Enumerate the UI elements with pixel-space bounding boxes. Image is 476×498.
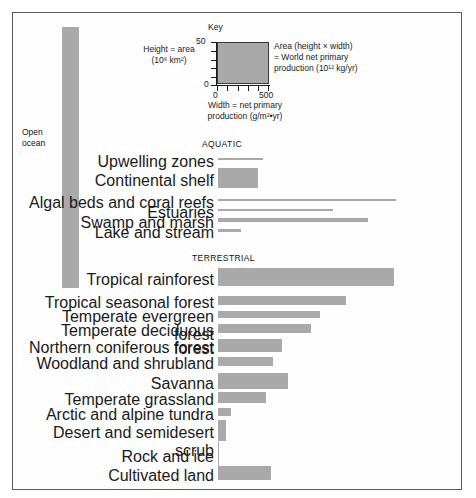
key-area-line1: Area (height × width) bbox=[274, 41, 353, 51]
bar-row-label-text: Woodland and shrubland bbox=[36, 355, 214, 372]
bar-desert-and-semidesert-scrub bbox=[218, 420, 226, 441]
bar-row-label-text: Lake and stream bbox=[95, 224, 214, 241]
bar-row-label-text: Rock and ice bbox=[122, 448, 215, 465]
bar-arctic-and-alpine-tundra bbox=[218, 408, 231, 416]
key-area-description: Area (height × width) = World net primar… bbox=[274, 41, 378, 74]
bar-rock-and-ice bbox=[218, 442, 219, 466]
key-y-axis bbox=[216, 42, 217, 86]
key-y-tick-0 bbox=[211, 85, 216, 86]
bar-tropical-seasonal-forest bbox=[218, 296, 346, 305]
key-area-line3: production (10¹² kg/yr) bbox=[274, 63, 358, 73]
bar-swamp-and-marsh bbox=[218, 218, 368, 222]
bar-row-label: Upwelling zones bbox=[20, 153, 214, 171]
label-open-ocean: Open ocean bbox=[22, 127, 60, 148]
key-width-line2: production (g/m²•yr) bbox=[208, 111, 283, 121]
key-height-line2: (10⁶ km²) bbox=[151, 55, 186, 65]
bar-temperate-evergreen-forest bbox=[218, 311, 320, 318]
bar-temperate-grassland bbox=[218, 392, 266, 403]
bar-row-label-text: Savanna bbox=[151, 375, 214, 392]
key-y-tick-50 bbox=[211, 42, 216, 43]
bar-lake-and-stream bbox=[218, 229, 241, 232]
key-x-tick-300 bbox=[248, 86, 249, 91]
key-y-tick-20 bbox=[211, 68, 216, 69]
key-y-tick-10 bbox=[211, 77, 216, 78]
label-open-ocean-line1: Open bbox=[22, 127, 43, 137]
key-width-line1: Width = net primary bbox=[208, 100, 282, 110]
bar-cultivated-land bbox=[218, 466, 271, 480]
bar-row-label-text: Continental shelf bbox=[95, 172, 214, 189]
bar-row-label: Rock and ice bbox=[20, 448, 214, 466]
bar-northern-coniferous-forest bbox=[218, 339, 282, 352]
bar-upwelling-zones bbox=[218, 158, 263, 160]
bar-row-label-text: Cultivated land bbox=[108, 467, 214, 484]
figure-container: Open ocean Key 50 0 0 500 Height = area … bbox=[0, 0, 476, 498]
key-title: Key bbox=[208, 22, 223, 32]
bar-tropical-rainforest bbox=[218, 268, 394, 286]
key-y-tick-30 bbox=[211, 60, 216, 61]
bar-continental-shelf bbox=[218, 168, 258, 188]
bar-row-label: Woodland and shrubland bbox=[20, 355, 214, 373]
key-height-line1: Height = area bbox=[143, 44, 194, 54]
bar-row-label-text: Upwelling zones bbox=[97, 153, 214, 170]
bar-woodland-and-shrubland bbox=[218, 357, 273, 366]
bar-estuaries bbox=[218, 209, 333, 211]
bar-temperate-deciduous-forest bbox=[218, 324, 311, 333]
bar-algal-beds-and-coral-reefs bbox=[218, 199, 396, 201]
bar-row-label: Tropical rainforest bbox=[20, 271, 214, 289]
key-height-description: Height = area (10⁶ km²) bbox=[130, 44, 208, 66]
bar-row-label-text: Tropical rainforest bbox=[87, 271, 214, 288]
bar-row-label-text: Northern coniferous forest bbox=[29, 339, 214, 356]
key-x-label-max: 500 bbox=[259, 90, 273, 100]
key-x-tick-100 bbox=[227, 86, 228, 91]
bar-row-label-text: Arctic and alpine tundra bbox=[46, 406, 214, 423]
bar-row-label: Cultivated land bbox=[20, 467, 214, 485]
section-heading-aquatic: AQUATIC bbox=[202, 139, 242, 149]
key-area-line2: = World net primary bbox=[274, 52, 348, 62]
key-y-tick-40 bbox=[211, 51, 216, 52]
key-x-axis bbox=[216, 85, 270, 86]
bar-row-label: Continental shelf bbox=[20, 172, 214, 190]
bar-row-label: Arctic and alpine tundra bbox=[20, 406, 214, 424]
key-x-label-min: 0 bbox=[213, 90, 218, 100]
bar-savanna bbox=[218, 373, 288, 389]
label-open-ocean-line2: ocean bbox=[22, 138, 45, 148]
key-x-tick-200 bbox=[238, 86, 239, 91]
key-swatch-box bbox=[217, 42, 269, 84]
bar-row-label: Lake and stream bbox=[20, 224, 214, 242]
key-y-label-min: 0 bbox=[204, 79, 209, 89]
section-heading-terrestrial: TERRESTRIAL bbox=[192, 253, 255, 263]
key-width-description: Width = net primary production (g/m²•yr) bbox=[178, 100, 312, 122]
